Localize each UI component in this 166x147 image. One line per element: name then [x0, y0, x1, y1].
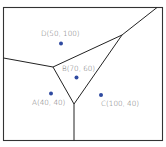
- point-b-label: B(70, 60): [62, 64, 95, 73]
- point-d-dot: [59, 42, 63, 46]
- point-a-dot: [49, 92, 53, 96]
- point-a-label: A(40, 40): [32, 98, 66, 107]
- point-b-dot: [75, 76, 79, 80]
- point-c-dot: [99, 93, 103, 97]
- voronoi-diagram: D(50, 100) B(70, 60) A(40, 40) C(100, 40…: [0, 0, 166, 147]
- diagram-frame: [4, 8, 163, 141]
- point-c-label: C(100, 40): [101, 99, 139, 108]
- point-d-label: D(50, 100): [41, 29, 80, 38]
